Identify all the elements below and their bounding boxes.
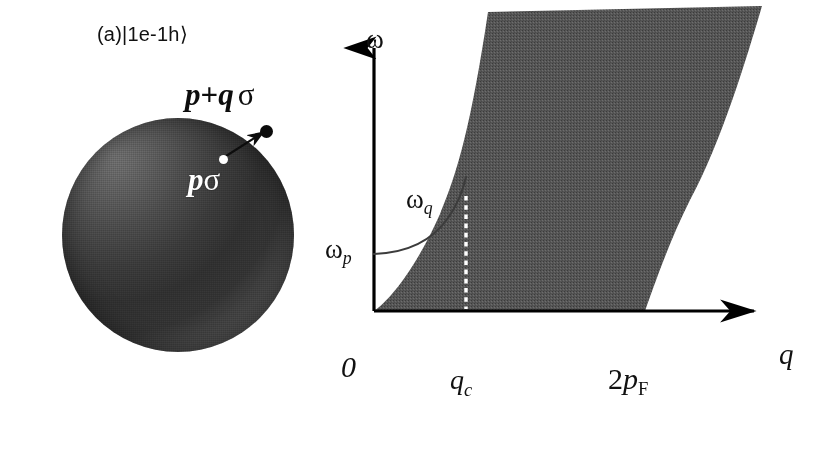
electron-momentum-label: p+qσ <box>185 79 254 110</box>
panel-a-fermi-sphere: (a)|1e-1h⟩ pσ p+qσ <box>0 0 380 454</box>
hole-momentum-vector: p <box>188 162 204 197</box>
excitation-arrow-line <box>225 133 264 158</box>
panel-b-continuum-plot: (b) <box>330 0 827 454</box>
hole-spin-symbol: σ <box>204 162 221 197</box>
fermi-subscript: F <box>638 378 648 399</box>
figure-root: (a)|1e-1h⟩ pσ p+qσ (b) <box>0 0 827 454</box>
plasmon-dispersion-label: ωq <box>406 186 433 218</box>
qc-q: q <box>450 364 464 395</box>
omega-p-subscript: p <box>343 248 352 268</box>
continuum-plot-svg <box>330 0 827 454</box>
p-symbol: p <box>623 362 638 395</box>
electron-spin-symbol: σ <box>238 77 255 112</box>
omega-axis-label: ω <box>366 26 384 53</box>
qc-subscript: c <box>464 380 472 400</box>
hole-momentum-label: pσ <box>188 164 220 195</box>
q-axis-label: q <box>779 340 794 369</box>
omega-q-omega: ω <box>406 184 424 214</box>
electron-momentum-vector-q: q <box>218 77 234 112</box>
critical-momentum-label: qc <box>450 366 472 399</box>
particle-hole-continuum-region <box>374 6 762 311</box>
omega-p-omega: ω <box>325 234 343 264</box>
plasma-frequency-label: ωp <box>325 236 352 268</box>
hole-dot <box>219 155 228 164</box>
two-prefix: 2 <box>608 362 623 395</box>
excitation-arrow <box>0 0 380 454</box>
omega-q-subscript: q <box>424 198 433 218</box>
fermi-momentum-label: 2pF <box>608 364 648 399</box>
electron-momentum-plus: + <box>201 77 219 112</box>
electron-dot <box>260 125 273 138</box>
electron-momentum-vector-p: p <box>185 77 201 112</box>
origin-label: 0 <box>341 352 356 382</box>
